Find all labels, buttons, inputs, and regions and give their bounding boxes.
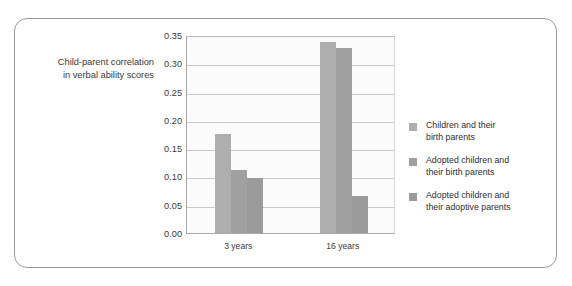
legend-label-line-1: Adopted children and bbox=[426, 155, 549, 167]
y-axis-title: Child-parent correlation in verbal abili… bbox=[26, 55, 154, 81]
chart-figure: Child-parent correlation in verbal abili… bbox=[0, 0, 572, 286]
legend-swatch-icon bbox=[409, 158, 417, 166]
legend-swatch-icon bbox=[409, 193, 417, 201]
legend-swatch-icon bbox=[409, 123, 417, 131]
bar bbox=[336, 48, 352, 233]
bar bbox=[320, 42, 336, 233]
legend-label-line-2: their adoptive parents bbox=[426, 202, 549, 214]
y-axis-tick-label: 0.20 bbox=[146, 116, 182, 126]
gridline bbox=[187, 65, 394, 66]
bar bbox=[231, 170, 247, 233]
gridline bbox=[187, 94, 394, 95]
plot-area bbox=[186, 36, 395, 234]
bar bbox=[352, 196, 368, 233]
legend-label-line-2: birth parents bbox=[426, 132, 549, 144]
y-axis-tick-label: 0.05 bbox=[146, 201, 182, 211]
y-axis-tick-label: 0.25 bbox=[146, 88, 182, 98]
y-axis-tick-label: 0.15 bbox=[146, 144, 182, 154]
y-axis-tick-label: 0.10 bbox=[146, 172, 182, 182]
x-axis-category-label: 16 years bbox=[326, 241, 359, 251]
y-axis-title-line-2: in verbal ability scores bbox=[26, 68, 154, 81]
y-axis-tick-label: 0.00 bbox=[146, 229, 182, 239]
legend-label-line-2: their birth parents bbox=[426, 167, 549, 179]
legend-label-line-1: Children and their bbox=[426, 120, 549, 132]
y-axis-tick-label: 0.35 bbox=[146, 31, 182, 41]
bar bbox=[247, 178, 263, 233]
legend-item: Adopted children andtheir birth parents bbox=[409, 155, 549, 179]
legend-item: Children and theirbirth parents bbox=[409, 120, 549, 144]
bar bbox=[215, 134, 231, 233]
y-axis-tick-label: 0.30 bbox=[146, 59, 182, 69]
legend-item: Adopted children andtheir adoptive paren… bbox=[409, 190, 549, 214]
y-axis-tick-labels: 0.350.300.250.200.150.100.050.00 bbox=[146, 36, 182, 234]
x-axis-category-label: 3 years bbox=[224, 241, 252, 251]
chart-legend: Children and theirbirth parentsAdopted c… bbox=[409, 120, 549, 225]
legend-label-line-1: Adopted children and bbox=[426, 190, 549, 202]
y-axis-title-line-1: Child-parent correlation bbox=[58, 56, 154, 67]
gridline bbox=[187, 122, 394, 123]
